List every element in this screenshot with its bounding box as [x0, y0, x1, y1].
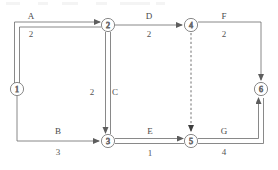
duration-label-F: 2	[222, 30, 227, 39]
node-label-4: 4	[189, 21, 193, 30]
network-graph: 1 2 3 4 5 6	[0, 0, 278, 170]
node-circle-6: 6	[254, 82, 267, 95]
activity-label-C: C	[112, 88, 118, 97]
node-circle-1: 1	[10, 82, 23, 95]
node-circle-3: 3	[101, 134, 114, 147]
activity-arrow-G	[198, 98, 264, 144]
node-label-5: 5	[189, 137, 193, 146]
activity-label-G: G	[221, 127, 228, 136]
duration-label-C: 2	[90, 88, 95, 97]
activity-label-F: F	[221, 12, 226, 21]
activity-arrow-F	[198, 22, 261, 80]
duration-label-E: 1	[148, 149, 153, 158]
activity-label-B: B	[55, 127, 61, 136]
node-circle-2: 2	[101, 18, 114, 31]
node-label-1: 1	[15, 85, 19, 94]
duration-label-G: 4	[222, 148, 227, 157]
node-circle-4: 4	[184, 18, 197, 31]
activity-arrow-E	[115, 139, 184, 144]
duration-label-D: 2	[147, 30, 152, 39]
activity-arrow-A	[15, 22, 102, 89]
activity-label-D: D	[146, 12, 153, 21]
node-circle-5: 5	[184, 134, 197, 147]
network-diagram-canvas: 1 2 3 4 5 6 A 2 B	[0, 0, 278, 170]
duration-label-B: 3	[56, 148, 61, 157]
activity-arrow-C	[106, 32, 111, 134]
activity-label-A: A	[28, 12, 35, 21]
node-label-6: 6	[259, 85, 263, 94]
duration-label-A: 2	[29, 30, 34, 39]
node-label-2: 2	[106, 21, 110, 30]
activity-label-E: E	[147, 127, 153, 136]
node-label-3: 3	[106, 137, 110, 146]
